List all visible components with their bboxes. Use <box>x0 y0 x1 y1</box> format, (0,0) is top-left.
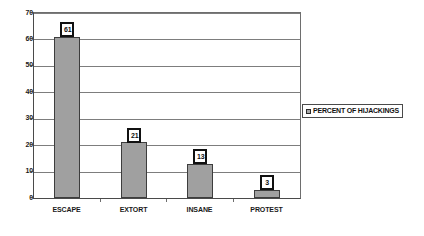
x-axis-tick-label: INSANE <box>166 206 233 214</box>
bar-escape[interactable] <box>54 37 80 198</box>
gridline <box>34 13 300 14</box>
x-axis: ESCAPEEXTORTINSANEPROTEST <box>33 199 301 221</box>
x-axis-tick-label: PROTEST <box>233 206 300 214</box>
bar-value-label: 61 <box>60 22 74 37</box>
x-axis-tick-mark <box>166 199 167 202</box>
bar-value-label: 13 <box>193 149 207 164</box>
bar-insane[interactable] <box>187 164 213 198</box>
bar-value-label: 21 <box>127 128 141 143</box>
bar-chart: 010203040506070 6121133 ESCAPEEXTORTINSA… <box>0 0 424 236</box>
y-axis: 010203040506070 <box>0 12 33 199</box>
x-axis-tick-label: EXTORT <box>100 206 167 214</box>
chart-legend[interactable]: PERCENT OF HIJACKINGS <box>302 104 403 118</box>
legend-entry-label: PERCENT OF HIJACKINGS <box>313 107 399 115</box>
legend-swatch-icon <box>306 109 311 114</box>
bar-value-label: 3 <box>260 175 274 190</box>
x-axis-tick-mark <box>100 199 101 202</box>
x-axis-tick-label: ESCAPE <box>33 206 100 214</box>
plot-area: 6121133 <box>33 12 301 199</box>
bar-extort[interactable] <box>121 142 147 198</box>
bar-protest[interactable] <box>254 190 280 198</box>
x-axis-tick-mark <box>233 199 234 202</box>
